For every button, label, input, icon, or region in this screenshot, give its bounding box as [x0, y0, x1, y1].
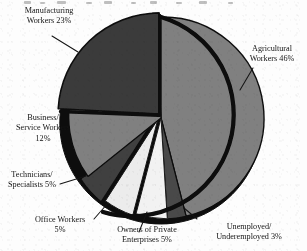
- label-manufacturing-workers: Manufacturing Workers 23%: [2, 6, 96, 27]
- label-office-workers: Office Workers 5%: [22, 215, 98, 236]
- leader-line-manufacturing: [52, 36, 78, 52]
- pie-chart-figure: Manufacturing Workers 23% Agricultural W…: [0, 0, 307, 251]
- label-agricultural-workers: Agricultural Workers 46%: [238, 44, 306, 65]
- label-business-service-workers: Business/ Service Workers 12%: [2, 113, 84, 144]
- label-technicians-specialists: Technicians/ Specialists 5%: [0, 170, 64, 191]
- label-unemployed-underemployed: Unemployed/ Underemployed 3%: [198, 222, 300, 243]
- label-owners-of-private-enterprises: Owners of Private Enterprises 5%: [104, 225, 190, 246]
- pie-slice-manufacturing-workers[interactable]: [58, 13, 159, 114]
